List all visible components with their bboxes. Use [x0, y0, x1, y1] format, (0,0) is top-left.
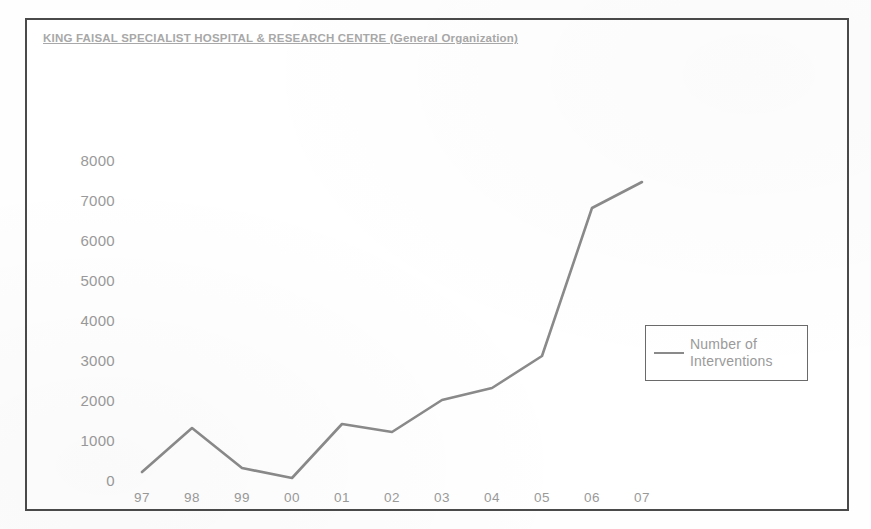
- y-axis-tick-label: 3000: [80, 352, 115, 369]
- legend-color-swatch-icon: [654, 352, 684, 355]
- x-axis: 9798990001020304050607: [112, 490, 827, 514]
- y-axis-tick-label: 2000: [80, 392, 115, 409]
- series-line-chart: [112, 160, 827, 480]
- plot-area: [112, 160, 827, 480]
- x-axis-tick-label: 05: [534, 490, 550, 505]
- legend-label: Number of Interventions: [690, 336, 773, 371]
- x-axis-tick-label: 01: [334, 490, 350, 505]
- x-axis-tick-label: 98: [184, 490, 200, 505]
- y-axis-tick-label: 8000: [80, 152, 115, 169]
- y-axis-tick-label: 7000: [80, 192, 115, 209]
- y-axis: 010002000300040005000600070008000: [55, 160, 115, 480]
- page-canvas: KING FAISAL SPECIALIST HOSPITAL & RESEAR…: [0, 0, 871, 529]
- x-axis-tick-label: 06: [584, 490, 600, 505]
- x-axis-tick-label: 04: [484, 490, 500, 505]
- x-axis-tick-label: 00: [284, 490, 300, 505]
- x-axis-tick-label: 02: [384, 490, 400, 505]
- chart-frame: KING FAISAL SPECIALIST HOSPITAL & RESEAR…: [25, 18, 849, 511]
- x-axis-tick-label: 97: [134, 490, 150, 505]
- y-axis-tick-label: 1000: [80, 432, 115, 449]
- series-line-number-of-interventions: [142, 182, 642, 478]
- y-axis-tick-label: 4000: [80, 312, 115, 329]
- x-axis-tick-label: 03: [434, 490, 450, 505]
- legend-label-line1: Number of: [690, 336, 757, 352]
- y-axis-tick-label: 5000: [80, 272, 115, 289]
- chart-legend: Number of Interventions: [645, 325, 808, 381]
- legend-label-line2: Interventions: [690, 353, 773, 369]
- y-axis-tick-label: 6000: [80, 232, 115, 249]
- x-axis-tick-label: 99: [234, 490, 250, 505]
- x-axis-tick-label: 07: [634, 490, 650, 505]
- page-title: KING FAISAL SPECIALIST HOSPITAL & RESEAR…: [43, 32, 518, 44]
